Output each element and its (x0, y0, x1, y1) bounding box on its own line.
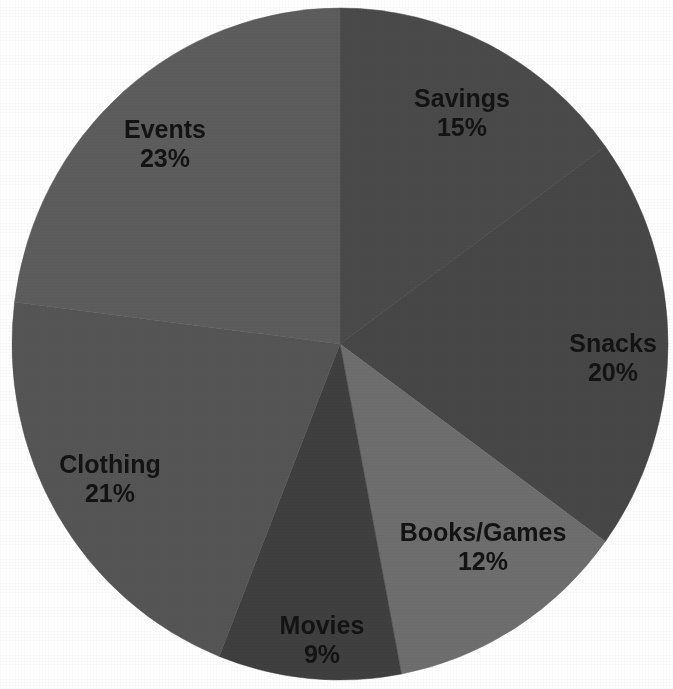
slice-value-clothing: 21% (85, 479, 135, 507)
slice-value-events: 23% (140, 144, 190, 172)
slice-value-snacks: 20% (588, 358, 638, 386)
pie-chart-canvas: Savings15%Snacks20%Books/Games12%Movies9… (0, 0, 673, 689)
pie-slice-events[interactable] (15, 8, 340, 344)
slice-value-books-games: 12% (458, 547, 508, 575)
slice-value-movies: 9% (304, 640, 340, 668)
slice-label-clothing: Clothing (59, 450, 160, 478)
slice-value-savings: 15% (437, 113, 487, 141)
slice-label-snacks: Snacks (569, 329, 657, 357)
pie-chart: Savings15%Snacks20%Books/Games12%Movies9… (0, 0, 673, 689)
slice-label-movies: Movies (280, 611, 365, 639)
slice-label-savings: Savings (414, 84, 510, 112)
slice-label-books-games: Books/Games (400, 518, 567, 546)
slice-label-events: Events (124, 115, 206, 143)
